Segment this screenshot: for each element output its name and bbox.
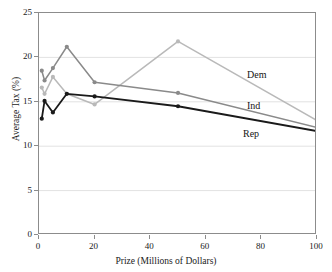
- data-point-marker: [51, 110, 55, 114]
- y-tick-mark: [34, 101, 38, 102]
- x-tick-mark: [260, 235, 261, 239]
- y-tick-label: 0: [2, 230, 32, 239]
- x-tick-label: 0: [21, 242, 55, 251]
- x-tick-label: 100: [299, 242, 332, 251]
- series-label-dem: Dem: [247, 70, 266, 80]
- series-dem: [40, 39, 315, 122]
- y-tick-label: 25: [2, 8, 32, 17]
- x-tick-mark: [316, 235, 317, 239]
- plot-area: [38, 12, 316, 234]
- x-tick-mark: [149, 235, 150, 239]
- series-line: [42, 41, 315, 120]
- data-point-marker: [42, 99, 46, 103]
- data-point-marker: [40, 69, 44, 73]
- y-tick-label: 5: [2, 185, 32, 194]
- x-tick-label: 80: [243, 242, 277, 251]
- data-point-marker: [93, 94, 97, 98]
- data-point-marker: [40, 117, 44, 121]
- series-line: [42, 47, 315, 128]
- y-tick-mark: [34, 145, 38, 146]
- x-tick-mark: [38, 235, 39, 239]
- series-rep: [40, 92, 315, 133]
- series-ind: [40, 45, 315, 130]
- y-tick-mark: [34, 190, 38, 191]
- data-point-marker: [42, 78, 46, 82]
- x-tick-label: 40: [132, 242, 166, 251]
- y-tick-mark: [34, 56, 38, 57]
- data-point-marker: [176, 39, 180, 43]
- series-layer: [39, 13, 315, 233]
- chart-figure: 0510152025020406080100 Average Tax (%) P…: [0, 0, 332, 272]
- series-label-ind: Ind: [247, 101, 260, 111]
- data-point-marker: [51, 75, 55, 79]
- x-tick-label: 20: [77, 242, 111, 251]
- y-tick-mark: [34, 12, 38, 13]
- x-tick-mark: [94, 235, 95, 239]
- x-axis-title: Prize (Millions of Dollars): [0, 256, 332, 266]
- plot-inner: [39, 13, 315, 233]
- data-point-marker: [93, 80, 97, 84]
- series-label-rep: Rep: [243, 129, 259, 139]
- x-tick-label: 60: [188, 242, 222, 251]
- data-point-marker: [40, 85, 44, 89]
- data-point-marker: [65, 92, 69, 96]
- data-point-marker: [65, 45, 69, 49]
- x-tick-mark: [205, 235, 206, 239]
- data-point-marker: [93, 102, 97, 106]
- y-axis-title: Average Tax (%): [11, 49, 21, 169]
- data-point-marker: [51, 66, 55, 70]
- data-point-marker: [42, 92, 46, 96]
- data-point-marker: [176, 91, 180, 95]
- data-point-marker: [176, 104, 180, 108]
